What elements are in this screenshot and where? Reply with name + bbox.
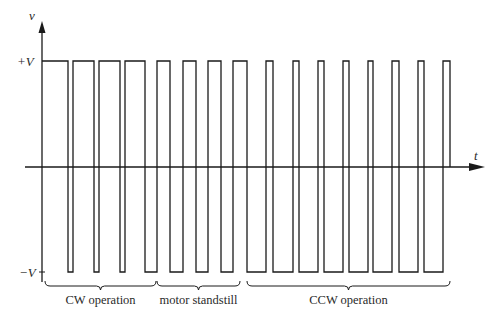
- waveform-diagram: v t +V −V CW operationmotor standstillCC…: [0, 0, 504, 323]
- v-axis-label: v: [29, 8, 35, 23]
- segment-label: CCW operation: [309, 293, 388, 307]
- v-axis-arrow-icon: [39, 21, 46, 33]
- segment-label: motor standstill: [159, 293, 238, 307]
- operation-braces: CW operationmotor standstillCCW operatio…: [45, 281, 450, 307]
- pos-level-label: +V: [17, 54, 36, 69]
- segment-brace: [45, 281, 156, 290]
- axes: v t +V −V: [17, 8, 485, 282]
- t-axis-arrow-icon: [469, 163, 485, 171]
- segment-brace: [247, 281, 450, 290]
- segment-label: CW operation: [65, 293, 136, 307]
- neg-level-label: −V: [19, 265, 38, 280]
- segment-brace: [157, 281, 240, 290]
- t-axis-label: t: [474, 148, 478, 163]
